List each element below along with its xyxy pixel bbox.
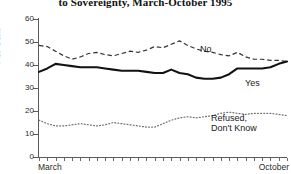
- x-axis-tick: [221, 158, 222, 161]
- y-axis-tick-label: 10: [0, 130, 34, 138]
- series-line-no: [39, 41, 287, 62]
- x-axis-tick: [97, 158, 98, 161]
- plot-area: [39, 19, 287, 157]
- x-axis-label-end: October: [259, 162, 289, 172]
- series-label-refused-line1: Refused,: [211, 113, 257, 123]
- x-axis-tick: [262, 158, 263, 161]
- x-axis-tick: [105, 158, 106, 161]
- x-axis-tick: [122, 158, 123, 161]
- y-axis-tick-label: 60: [0, 15, 34, 23]
- x-axis-tick: [56, 158, 57, 161]
- y-axis-tick-label: 20: [0, 107, 34, 115]
- series-label-yes: Yes: [245, 78, 260, 88]
- series-line-yes: [39, 62, 287, 79]
- x-axis-tick: [237, 158, 238, 161]
- x-axis-tick: [64, 158, 65, 161]
- x-axis-tick: [146, 158, 147, 161]
- x-axis-tick: [254, 158, 255, 161]
- x-axis-tick: [39, 158, 40, 161]
- x-axis-tick: [47, 158, 48, 161]
- x-axis-tick: [171, 158, 172, 161]
- x-axis-tick: [188, 158, 189, 161]
- x-axis-tick: [138, 158, 139, 161]
- x-axis-tick: [80, 158, 81, 161]
- x-axis-tick: [113, 158, 114, 161]
- series-label-no: No: [200, 44, 212, 54]
- series-label-refused-dont-know: Refused, Don't Know: [211, 113, 257, 133]
- series-svg: [39, 19, 287, 157]
- x-axis-tick: [130, 158, 131, 161]
- series-label-refused-line2: Don't Know: [211, 123, 257, 133]
- x-axis-tick: [155, 158, 156, 161]
- x-axis-tick: [270, 158, 271, 161]
- x-axis-label-start: March: [38, 162, 62, 172]
- x-axis-tick: [72, 158, 73, 161]
- sovereignty-support-line-chart: to Sovereignty, March-October 1995 Per C…: [0, 0, 291, 174]
- x-axis-tick: [213, 158, 214, 161]
- y-axis-tick-label: 50: [0, 38, 34, 46]
- x-axis-tick: [287, 158, 288, 161]
- y-axis-tick-label: 40: [0, 61, 34, 69]
- x-axis-tick: [246, 158, 247, 161]
- y-axis-tick-label: 30: [0, 84, 34, 92]
- x-axis-tick: [279, 158, 280, 161]
- chart-title: to Sovereignty, March-October 1995: [0, 0, 291, 8]
- y-axis-title: Per Cent: [0, 28, 2, 64]
- x-axis-tick: [229, 158, 230, 161]
- x-axis-tick: [204, 158, 205, 161]
- x-axis-tick: [196, 158, 197, 161]
- x-axis-tick: [89, 158, 90, 161]
- x-axis-tick: [163, 158, 164, 161]
- y-axis-tick-label: 0: [0, 153, 34, 161]
- x-axis-tick: [180, 158, 181, 161]
